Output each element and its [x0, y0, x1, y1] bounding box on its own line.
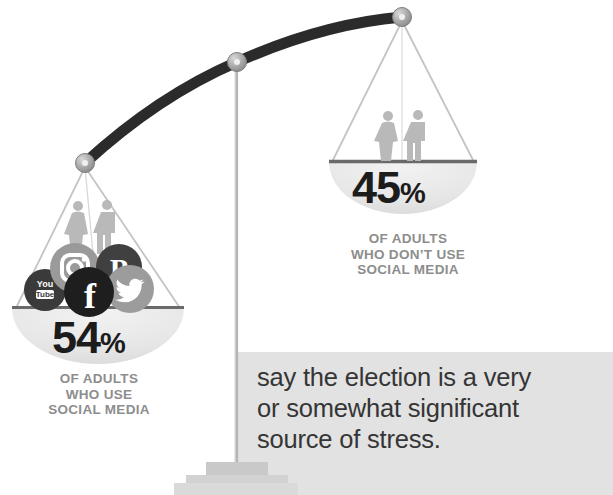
right-pan-figures — [374, 110, 425, 161]
statement-text: say the election is a very or somewhat s… — [257, 362, 607, 455]
facebook-icon-label: f — [84, 278, 96, 314]
pedestal-base — [174, 462, 298, 495]
right-pan-caption: OF ADULTS WHO DON’T USE SOCIAL MEDIA — [318, 231, 498, 278]
scale-beam — [85, 17, 402, 163]
left-pan-percentage-value: 54 — [52, 312, 100, 363]
right-pan-percentage-value: 45 — [352, 162, 400, 213]
center-post — [235, 62, 236, 468]
statement-line-1: say the election is a very — [257, 362, 607, 393]
right-pan-strings — [332, 21, 474, 162]
left-pan-caption-line-3: SOCIAL MEDIA — [10, 402, 188, 418]
right-pan-caption-line-3: SOCIAL MEDIA — [318, 262, 498, 278]
social-media-icon-cluster: You Tube P f — [24, 243, 164, 315]
statement-line-2: or somewhat significant — [257, 393, 607, 424]
right-pan-caption-line-1: OF ADULTS — [318, 231, 498, 247]
youtube-icon-label-bottom: Tube — [36, 290, 55, 299]
left-pan-caption: OF ADULTS WHO USE SOCIAL MEDIA — [10, 371, 188, 418]
right-pan-percentage: 45% — [352, 162, 425, 214]
left-pan-caption-line-2: WHO USE — [10, 387, 188, 403]
right-pan-caption-line-2: WHO DON’T USE — [318, 247, 498, 263]
right-pan-percentage-symbol: % — [400, 177, 425, 209]
infographic-root: You Tube P f 54% OF ADULTS W — [0, 0, 613, 495]
left-pan-percentage-symbol: % — [100, 327, 125, 359]
facebook-icon: f — [64, 267, 114, 317]
beam-knobs — [76, 8, 412, 173]
statement-line-3: source of stress. — [257, 424, 607, 455]
left-pan-percentage: 54% — [52, 312, 125, 364]
left-pan-caption-line-1: OF ADULTS — [10, 371, 188, 387]
youtube-icon-label-top: You — [37, 279, 53, 289]
